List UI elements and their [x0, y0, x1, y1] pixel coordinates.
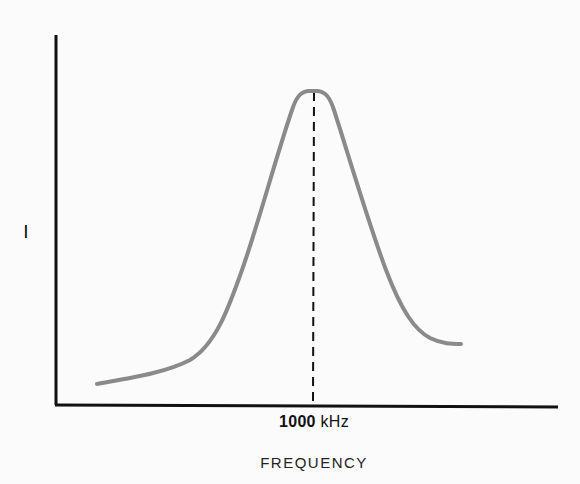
resonance-curve — [97, 91, 461, 384]
x-axis — [55, 405, 558, 407]
resonance-marker-line — [313, 92, 314, 403]
x-axis-label: FREQUENCY — [214, 454, 414, 471]
x-tick-label: 1000 kHz — [244, 413, 384, 431]
x-tick-value: 1000 — [279, 413, 316, 430]
plot-area — [0, 0, 580, 484]
resonance-chart: I 1000 kHz FREQUENCY — [0, 0, 580, 484]
y-axis-label: I — [19, 222, 33, 242]
x-tick-unit: kHz — [316, 413, 349, 430]
